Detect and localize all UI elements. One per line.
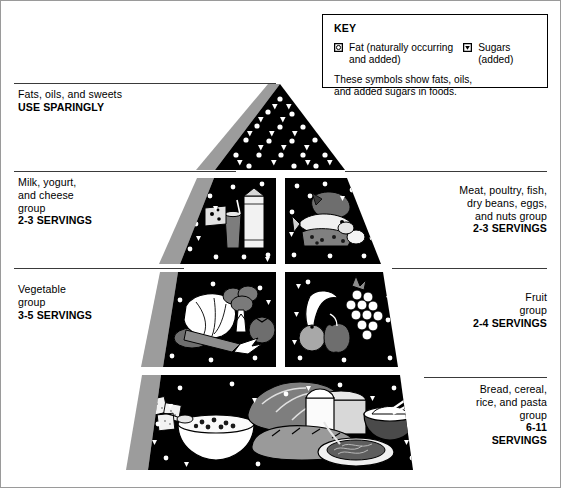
- key-fat-line-1: Fat (naturally occurring: [349, 42, 453, 54]
- key-entries: Fat (naturally occurring and added) Suga…: [334, 42, 538, 66]
- rule-milk-left: [14, 171, 236, 172]
- label-bread-servings-1: 6-11: [417, 421, 547, 434]
- label-milk-servings: 2-3 SERVINGS: [18, 214, 178, 227]
- key-entry-fat: Fat (naturally occurring and added): [334, 42, 453, 66]
- rule-meat-right: [345, 171, 547, 172]
- label-milk-group: Milk, yogurt, and cheese group 2-3 SERVI…: [18, 176, 178, 227]
- label-fruit-name-1: Fruit: [417, 291, 547, 304]
- food-tomato: [249, 317, 275, 343]
- label-fruit-group: Fruit group 2-4 SERVINGS: [417, 291, 547, 329]
- fat-circle-symbol-icon: [334, 43, 343, 52]
- sugar-triangle-symbol-icon: [463, 43, 472, 52]
- label-fruit-name-2: group: [417, 304, 547, 317]
- label-milk-name-2: and cheese: [18, 189, 178, 202]
- tier-vegetable: [163, 272, 276, 367]
- key-legend-box: KEY Fat (naturally occurring and added): [322, 14, 548, 88]
- key-sugars-line-1: Sugars: [478, 42, 513, 54]
- label-bread-group: Bread, cereal, rice, and pasta group 6-1…: [417, 383, 547, 447]
- key-entry-sugars: Sugars (added): [463, 42, 513, 66]
- label-fats-name: Fats, oils, and sweets: [18, 88, 198, 101]
- label-bread-name-1: Bread, cereal,: [417, 383, 547, 396]
- label-vegetable-name-1: Vegetable: [18, 283, 178, 296]
- label-milk-name-1: Milk, yogurt,: [18, 176, 178, 189]
- label-bread-name-3: group: [417, 409, 547, 422]
- label-bread-servings-2: SERVINGS: [417, 434, 547, 447]
- label-fruit-servings: 2-4 SERVINGS: [417, 317, 547, 330]
- label-fats-servings: USE SPARINGLY: [18, 101, 198, 114]
- key-fat-line-2: and added): [349, 54, 453, 66]
- key-note: These symbols show fats, oils, and added…: [334, 74, 538, 98]
- rule-vegetable-left: [14, 268, 184, 269]
- label-vegetable-group: Vegetable group 3-5 SERVINGS: [18, 283, 178, 321]
- key-title: KEY: [334, 22, 538, 34]
- label-meat-name-1: Meat, poultry, fish,: [397, 184, 547, 197]
- tier-meat-poultry-fish: [285, 178, 381, 264]
- label-meat-name-3: and nuts group: [397, 210, 547, 223]
- rule-bread-right: [424, 377, 547, 378]
- label-fats-oils-sweets: Fats, oils, and sweets USE SPARINGLY: [18, 88, 198, 114]
- label-vegetable-name-2: group: [18, 296, 178, 309]
- label-meat-name-2: dry beans, eggs,: [397, 197, 547, 210]
- key-sugars-text: Sugars (added): [478, 42, 513, 66]
- food-guide-pyramid-page: Fats, oils, and sweets USE SPARINGLY Mil…: [0, 0, 561, 488]
- key-fat-text: Fat (naturally occurring and added): [349, 42, 453, 66]
- food-milk-carton: [244, 188, 264, 248]
- key-note-line-2: and added sugars in foods.: [334, 86, 538, 98]
- label-meat-servings: 2-3 SERVINGS: [397, 222, 547, 235]
- key-note-line-1: These symbols show fats, oils,: [334, 74, 538, 86]
- label-bread-name-2: rice, and pasta: [417, 396, 547, 409]
- rule-fruit-right: [392, 268, 547, 269]
- tier-fruit: [285, 272, 398, 367]
- tier-bread-cereal-rice-pasta: [148, 375, 437, 470]
- rule-fats-left: [14, 83, 276, 84]
- label-meat-group: Meat, poultry, fish, dry beans, eggs, an…: [397, 184, 547, 235]
- food-orange: [299, 325, 325, 351]
- label-vegetable-servings: 3-5 SERVINGS: [18, 309, 178, 322]
- label-milk-name-3: group: [18, 202, 178, 215]
- key-sugars-line-2: (added): [478, 54, 513, 66]
